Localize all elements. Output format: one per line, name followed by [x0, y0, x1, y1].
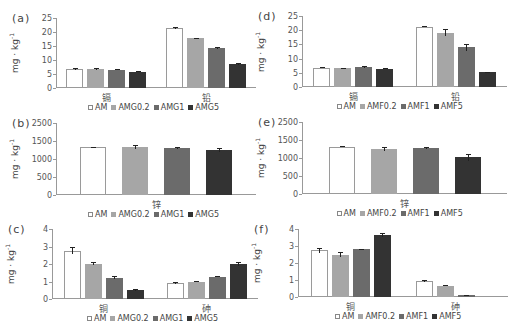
y-tick	[53, 141, 56, 142]
y-tick	[299, 140, 302, 141]
y-axis-label-text: mg · kg	[256, 37, 266, 71]
y-tick	[295, 297, 298, 298]
bar-amg5-1	[230, 264, 247, 299]
bar-amg5-0	[206, 150, 232, 195]
bar-am-0	[64, 251, 81, 299]
legend: AMAMG0.2AMG1AMG5	[87, 314, 218, 323]
bar-am-0	[66, 69, 83, 88]
legend: AMAMF0.2AMF1AMF5	[335, 312, 461, 321]
bar-amg1-0	[108, 70, 125, 88]
y-tick-label: 1	[289, 276, 294, 285]
error-bar-cap	[424, 147, 429, 148]
y-tick-label: 2	[43, 260, 48, 269]
plot-area: 0500100015002500锌	[302, 122, 507, 194]
legend-swatch-icon	[337, 104, 342, 109]
y-tick	[53, 46, 56, 47]
error-bar-cap	[73, 68, 78, 69]
error-bar-cap	[217, 148, 222, 149]
y-axis-label-exponent: -1	[8, 33, 15, 39]
error-bar-cap	[382, 147, 387, 148]
y-axis-label-text: mg · kg	[256, 144, 266, 178]
error-bar-cap	[91, 147, 96, 148]
legend-swatch-icon	[335, 314, 340, 319]
bar-amf1-0	[355, 67, 372, 87]
error-bar-cap	[194, 38, 199, 39]
y-tick-label: 3	[43, 242, 48, 251]
plot-area: 0510152025镉铅	[302, 16, 507, 87]
bar-amf5-0	[455, 157, 481, 194]
y-tick-label: 10	[42, 56, 52, 65]
bar-amg0-2-0	[85, 264, 102, 299]
error-bar	[466, 44, 467, 51]
y-tick	[53, 88, 56, 89]
y-axis-line	[56, 18, 57, 88]
y-tick	[53, 177, 56, 178]
y-tick-label: 0	[43, 295, 48, 304]
error-bar-cap	[485, 72, 490, 73]
y-tick	[299, 194, 302, 195]
legend-swatch-icon	[434, 104, 439, 109]
y-tick-label: 3	[289, 242, 294, 251]
y-tick-label: 2500	[278, 118, 298, 127]
y-tick-label: 1500	[278, 136, 298, 145]
panel-label: (a)	[12, 12, 30, 25]
y-tick-label: 2	[289, 259, 294, 268]
bar-amf5-0	[374, 235, 391, 297]
y-tick	[299, 87, 302, 88]
legend-label: AM	[94, 314, 106, 323]
y-tick-label: 0	[47, 84, 52, 93]
legend-label: AM	[342, 312, 354, 321]
y-tick-label: 4	[289, 225, 294, 234]
y-axis-line	[302, 122, 303, 194]
bar-am-1	[166, 28, 183, 88]
error-bar-cap	[383, 68, 388, 69]
bar-amg0-2-0	[122, 147, 148, 195]
bar-am-1	[416, 27, 433, 87]
y-tick	[53, 123, 56, 124]
error-bar-cap	[341, 68, 346, 69]
y-tick	[295, 229, 298, 230]
y-tick	[295, 246, 298, 247]
error-bar-cap	[443, 29, 448, 30]
y-axis-label-exponent: -1	[250, 243, 257, 249]
y-tick	[53, 74, 56, 75]
legend-item: AMF5	[432, 312, 461, 321]
legend-swatch-icon	[153, 316, 158, 321]
y-tick-label: 0	[47, 191, 52, 200]
bar-amg0-2-1	[187, 38, 204, 88]
error-bar-cap	[236, 63, 241, 64]
bar-am-1	[167, 283, 184, 299]
error-bar-cap	[215, 276, 220, 277]
error-bar-cap	[422, 26, 427, 27]
error-bar-cap	[91, 262, 96, 263]
error-bar-cap	[317, 248, 322, 249]
chart-panel-d: (d)mg · kg-10510152025镉铅AMAMF0.2AMF1AMF5	[258, 0, 516, 110]
legend-item: AMG1	[153, 314, 184, 323]
y-axis-label-exponent: -1	[254, 32, 261, 38]
y-tick	[299, 158, 302, 159]
y-tick-label: 5	[293, 68, 298, 77]
y-tick-label: 1	[43, 277, 48, 286]
legend-label: AMG5	[194, 314, 218, 323]
y-axis-label: mg · kg-1	[8, 139, 20, 179]
legend-label: AMF1	[406, 312, 428, 321]
legend-label: AMG1	[160, 314, 184, 323]
y-tick-label: 4	[43, 225, 48, 234]
panel-label: (c)	[8, 223, 26, 236]
y-axis-line	[298, 229, 299, 297]
chart-panel-b: (b)mg · kg-10500100015002500锌AMAMG0.2AMG…	[0, 110, 258, 220]
error-bar-cap	[359, 249, 364, 250]
y-axis-label-text: mg · kg	[10, 39, 20, 73]
y-tick-label: 25	[288, 12, 298, 21]
bar-amg5-0	[127, 290, 144, 299]
y-axis-line	[52, 229, 53, 299]
y-axis-label-text: mg · kg	[252, 249, 262, 283]
legend-label: AMF5	[439, 312, 461, 321]
y-tick-label: 15	[42, 42, 52, 51]
legend-label: AMG0.2	[117, 314, 148, 323]
y-tick	[53, 60, 56, 61]
legend-swatch-icon	[432, 314, 437, 319]
legend-swatch-icon	[360, 104, 365, 109]
y-tick	[299, 122, 302, 123]
y-tick-label: 5	[47, 70, 52, 79]
